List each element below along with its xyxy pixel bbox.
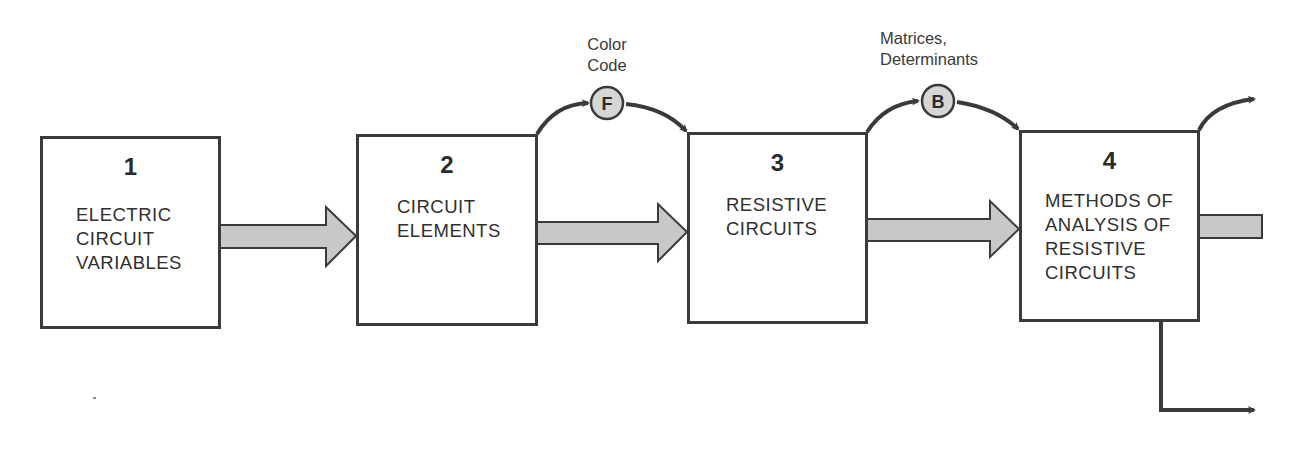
box-number: 4 [1022, 147, 1197, 175]
box-2-circuit-elements: 2 CIRCUIT ELEMENTS [356, 134, 538, 326]
svg-text:B: B [932, 92, 945, 112]
note-color-code: Color Code [572, 34, 642, 76]
badge-f-icon: F [591, 87, 623, 119]
box-number: 1 [43, 153, 218, 181]
curve-2-to-F [537, 103, 588, 134]
box-label: ELECTRIC CIRCUIT VARIABLES [76, 203, 182, 275]
box-3-resistive-circuits: 3 RESISTIVE CIRCUITS [687, 132, 868, 324]
arrow-4-out [1199, 215, 1262, 238]
arrow-1-to-2 [220, 207, 356, 266]
box-4-methods-of-analysis: 4 METHODS OF ANALYSIS OF RESISTIVE CIRCU… [1019, 130, 1200, 322]
box-label: METHODS OF ANALYSIS OF RESISTIVE CIRCUIT… [1045, 189, 1173, 285]
note-matrices-determinants: Matrices, Determinants [880, 28, 1000, 70]
curve-F-to-3 [626, 104, 686, 131]
box-number: 2 [359, 151, 535, 179]
arrow-3-to-4 [867, 201, 1019, 257]
curve-4-out [1199, 99, 1254, 130]
elbow-4-out [1161, 321, 1254, 410]
curve-B-to-4 [957, 102, 1018, 129]
svg-text:F: F [602, 94, 613, 114]
box-1-electric-circuit-variables: 1 ELECTRIC CIRCUIT VARIABLES [40, 136, 221, 329]
speck [93, 397, 96, 399]
box-label: CIRCUIT ELEMENTS [397, 195, 501, 243]
arrow-2-to-3 [537, 204, 687, 261]
badge-b-icon: B [922, 85, 954, 117]
box-number: 3 [690, 149, 865, 177]
box-label: RESISTIVE CIRCUITS [726, 193, 827, 241]
curve-3-to-B [867, 101, 918, 132]
